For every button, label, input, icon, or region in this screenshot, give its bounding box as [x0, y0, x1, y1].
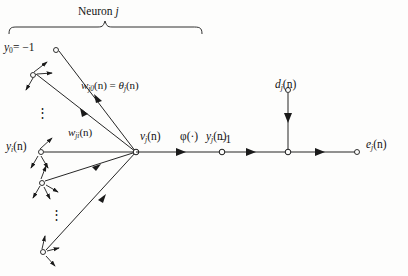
input-node-i: [39, 150, 44, 155]
synaptic-weight-arg: (n): [79, 126, 92, 138]
neuron-bracket-word: Neuron: [78, 5, 113, 17]
edge-activation: [136, 148, 222, 156]
error-output-node: [355, 150, 360, 155]
edge-minus-one: [225, 148, 288, 156]
edge-input-i-to-summing: [31, 138, 136, 168]
activation-function-label: φ(·): [180, 131, 198, 143]
diagram-canvas: [0, 0, 408, 276]
bias-input-value: = −1: [13, 41, 35, 53]
error-weight-label: −1: [219, 134, 231, 146]
bias-weight-label: wj0(n) = θj(n): [81, 80, 139, 93]
input-signal-label: yi(n): [6, 141, 27, 154]
neuron-signal-flow-figure: Neuron j y0= −1 wj0(n) = θj(n) yi(n) wji…: [0, 0, 408, 276]
error-signal-arg: (n): [373, 138, 386, 150]
neuron-bracket-index: j: [115, 5, 118, 17]
vertical-dots-upper: ⋮: [36, 106, 49, 119]
edge-error-output: [291, 148, 357, 156]
error-junction: [285, 149, 291, 155]
bias-weight-theta-arg: (n): [126, 79, 139, 91]
induced-field-arg: (n): [147, 130, 160, 142]
input-signal-arg: (n): [13, 140, 26, 152]
synapse-cluster-mid: [33, 152, 136, 199]
desired-response-arg: (n): [283, 78, 296, 90]
edge-desired-response: [284, 88, 292, 153]
error-signal-label: ej(n): [366, 139, 387, 152]
neuron-output-node: [219, 149, 225, 155]
synaptic-weight-label: wji(n): [68, 127, 92, 140]
vertical-dots-lower: ⋮: [50, 208, 63, 221]
neuron-bracket-label: Neuron j: [78, 6, 119, 18]
neuron-bracket: [9, 21, 202, 34]
desired-response-label: dj(n): [275, 79, 296, 92]
bias-input-label: y0= −1: [4, 42, 35, 55]
bias-weight-arg: (n) =: [94, 79, 119, 91]
induced-field-label: vj(n): [140, 131, 161, 144]
bias-input-node: [54, 48, 59, 53]
